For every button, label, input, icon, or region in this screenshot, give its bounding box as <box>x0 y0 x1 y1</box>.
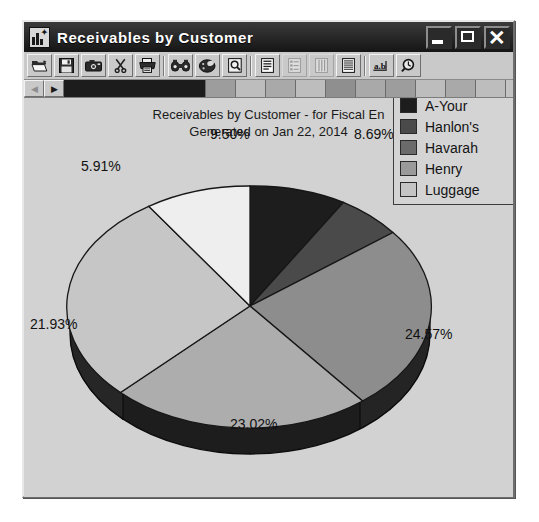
tab-8[interactable] <box>386 80 416 97</box>
scroll-left-arrow[interactable]: ◀ <box>24 80 44 97</box>
window-title: Receivables by Customer <box>57 29 423 46</box>
legend-item-label: Havarah <box>425 140 478 156</box>
toolbar: a.b <box>24 52 513 80</box>
chart-legend: A-YourHanlon'sHavarahHenryLuggage <box>393 98 513 205</box>
outline-view-button[interactable] <box>282 54 307 77</box>
column-view-button[interactable] <box>309 54 334 77</box>
scroll-right-arrow[interactable]: ▶ <box>44 80 64 97</box>
floppy-disk-icon <box>59 58 74 73</box>
title-bar[interactable]: ✦ Receivables by Customer ✕ <box>24 22 513 52</box>
tab-11[interactable] <box>476 80 506 97</box>
binoculars-icon <box>171 59 190 72</box>
legend-item-label: Henry <box>425 161 462 177</box>
palette-icon <box>199 59 216 73</box>
maximize-button[interactable] <box>455 26 481 49</box>
legend-swatch-icon <box>400 161 417 176</box>
document-tree-icon <box>288 58 301 73</box>
maximize-icon <box>461 31 474 42</box>
legend-item-henry[interactable]: Henry <box>400 158 513 179</box>
legend-item-a-your[interactable]: A-Your <box>400 98 513 116</box>
application-window: ✦ Receivables by Customer ✕ <box>22 20 515 498</box>
tab-4[interactable] <box>266 80 296 97</box>
tab-5[interactable] <box>296 80 326 97</box>
list-view-button[interactable] <box>336 54 361 77</box>
legend-item-label: A-Your <box>425 98 467 114</box>
legend-swatch-icon <box>400 182 417 197</box>
open-button[interactable] <box>27 54 52 77</box>
pct-label-luggage-left: 21.93% <box>30 316 77 332</box>
pct-label-luggage: 5.91% <box>81 158 121 174</box>
close-icon: ✕ <box>486 28 508 47</box>
printer-icon <box>139 58 156 73</box>
print-button[interactable] <box>135 54 160 77</box>
chevron-right-icon: ▶ <box>51 84 58 94</box>
tab-6[interactable] <box>326 80 356 97</box>
legend-item-hanlon-s[interactable]: Hanlon's <box>400 116 513 137</box>
tab-7[interactable] <box>356 80 386 97</box>
print-preview-button[interactable] <box>222 54 247 77</box>
camera-icon <box>85 59 102 72</box>
pct-label-a-your: 8.69% <box>354 126 394 142</box>
close-button[interactable]: ✕ <box>484 26 510 49</box>
legend-item-havarah[interactable]: Havarah <box>400 137 513 158</box>
page-magnifier-icon <box>228 58 242 73</box>
legend-item-label: Hanlon's <box>425 119 479 135</box>
toolbar-separator <box>250 56 252 76</box>
snapshot-button[interactable] <box>81 54 106 77</box>
scissors-icon <box>114 58 127 73</box>
legend-item-label: Luggage <box>425 182 480 198</box>
pie-slices <box>67 186 432 428</box>
chart-report-icon: ✦ <box>29 27 50 48</box>
columns-icon <box>315 58 328 73</box>
legend-swatch-icon <box>400 119 417 134</box>
tab-9[interactable] <box>416 80 446 97</box>
tab-10[interactable] <box>446 80 476 97</box>
tab-track <box>64 80 513 97</box>
tab-selected[interactable] <box>64 80 206 97</box>
legend-swatch-icon <box>400 98 417 113</box>
report-view-button[interactable] <box>255 54 280 77</box>
save-button[interactable] <box>54 54 79 77</box>
legend-swatch-icon <box>400 140 417 155</box>
palette-button[interactable] <box>195 54 220 77</box>
ab-text-icon: a.b <box>372 59 391 73</box>
tab-3[interactable] <box>236 80 266 97</box>
cut-button[interactable] <box>108 54 133 77</box>
legend-item-luggage[interactable]: Luggage <box>400 179 513 200</box>
toolbar-separator <box>364 56 366 76</box>
text-field-button[interactable]: a.b <box>369 54 394 77</box>
toolbar-separator <box>163 56 165 76</box>
tab-2[interactable] <box>206 80 236 97</box>
document-lines-icon <box>261 58 274 73</box>
pct-label-henry: 23.02% <box>230 416 277 432</box>
search-button[interactable] <box>396 54 421 77</box>
view-chart-button[interactable] <box>168 54 193 77</box>
pct-label-havarah: 24.57% <box>405 326 452 342</box>
pct-label-other: 9.50% <box>210 126 250 142</box>
tab-scroll-strip: ◀ ▶ <box>24 80 513 98</box>
chevron-left-icon: ◀ <box>31 84 38 94</box>
magnifier-clock-icon <box>401 58 416 73</box>
minimize-button[interactable] <box>426 26 452 49</box>
chart-canvas: Receivables by Customer - for Fiscal En … <box>24 98 513 497</box>
list-rows-icon <box>342 58 355 73</box>
svg-text:a.b: a.b <box>374 60 386 70</box>
minimize-icon <box>432 40 443 44</box>
folder-open-icon <box>31 58 48 73</box>
